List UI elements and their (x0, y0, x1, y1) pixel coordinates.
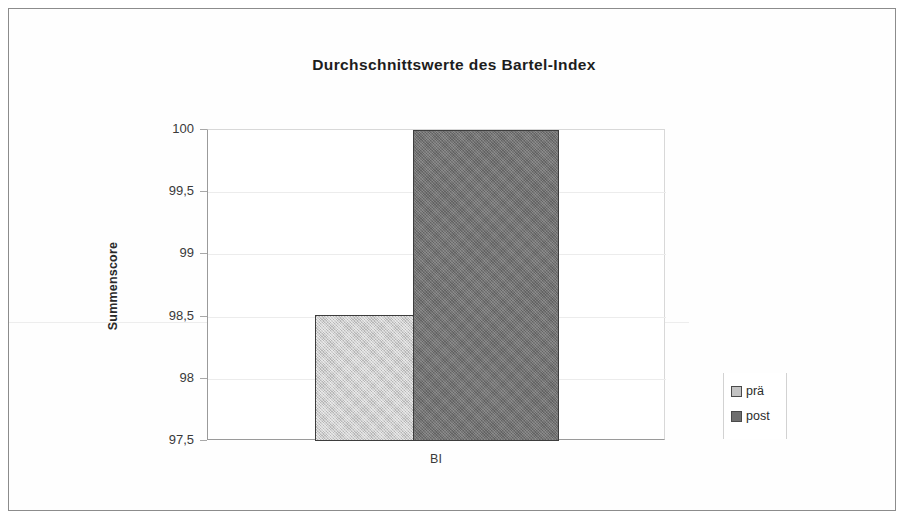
legend-item-post[interactable]: post (731, 410, 770, 422)
y-axis-tick-label: 98 (134, 371, 194, 384)
y-axis-tick-mark (200, 378, 207, 379)
scanned-page: Durchschnittswerte des Bartel-Index Summ… (0, 0, 908, 528)
y-axis-tick-label: 97,5 (134, 433, 194, 446)
legend-item-prae[interactable]: prä (731, 385, 764, 397)
y-axis-tick-labels: 10099,59998,59897,5 (132, 0, 194, 528)
legend-swatch-post-icon (731, 411, 742, 422)
y-axis-title: Summenscore (106, 226, 120, 346)
y-axis-tick-mark (200, 440, 207, 441)
x-axis-category-label: BI (314, 452, 558, 466)
legend-swatch-prae-icon (731, 386, 742, 397)
bar-post[interactable] (413, 130, 559, 441)
bar-prae[interactable] (315, 315, 414, 441)
plot-area (207, 129, 665, 440)
y-axis-tick-label: 98,5 (134, 309, 194, 322)
legend-label-post: post (746, 410, 770, 422)
y-axis-tick-label: 99,5 (134, 184, 194, 197)
y-axis-tick-mark (200, 253, 207, 254)
y-axis-tick-mark (200, 129, 207, 130)
y-axis-tick-label: 100 (134, 122, 194, 135)
legend-label-prae: prä (746, 385, 764, 397)
y-axis-tick-label: 99 (134, 246, 194, 259)
y-axis-tick-mark (200, 316, 207, 317)
y-axis-tick-mark (200, 191, 207, 192)
chart-legend: prä post (723, 373, 787, 439)
